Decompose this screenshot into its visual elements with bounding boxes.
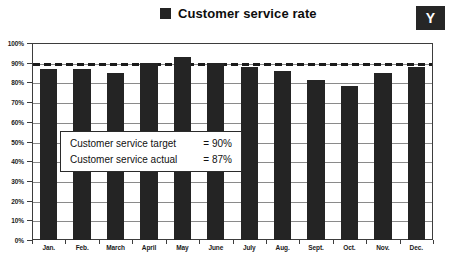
x-tick-mark [266, 240, 267, 244]
bar [408, 67, 425, 240]
customer-service-rate-chart: Customer service rate Y 100%90%80%70%60%… [0, 0, 459, 276]
x-tick-label: Dec. [410, 244, 423, 251]
bar [274, 71, 291, 240]
x-tick-label: Sept. [308, 244, 323, 251]
legend-color-swatch-icon [160, 8, 171, 19]
bar [374, 73, 391, 240]
x-tick-mark [132, 240, 133, 244]
x-tick-mark [299, 240, 300, 244]
bar [40, 69, 57, 240]
y-tick-label: 10% [11, 217, 24, 224]
x-tick-label: March [106, 244, 125, 251]
legend-label: Customer service rate [178, 7, 317, 20]
x-tick-mark [166, 240, 167, 244]
y-tick-label: 80% [11, 79, 24, 86]
y-tick-label: 70% [11, 99, 24, 106]
annotation-row-actual: Customer service actual = 87% [70, 152, 232, 168]
annotation-actual-value: = 87% [199, 152, 232, 168]
x-tick-mark [233, 240, 234, 244]
bar [307, 80, 324, 240]
bar [241, 67, 258, 240]
bar [341, 86, 358, 240]
x-tick-label: June [208, 244, 223, 251]
y-tick-label: 0% [15, 237, 24, 244]
x-tick-mark [400, 240, 401, 244]
x-axis: Jan.Feb.MarchAprilMayJuneJulyAug.Sept.Oc… [32, 244, 433, 262]
x-tick-label: Nov. [376, 244, 389, 251]
x-tick-mark [199, 240, 200, 244]
corner-badge: Y [416, 6, 445, 30]
annotation-target-label: Customer service target [70, 136, 176, 152]
x-tick-label: July [243, 244, 256, 251]
x-tick-mark [366, 240, 367, 244]
x-tick-label: Feb. [76, 244, 89, 251]
y-tick-label: 90% [11, 59, 24, 66]
x-tick-label: May [176, 244, 188, 251]
x-tick-label: Aug. [276, 244, 290, 251]
annotation-actual-label: Customer service actual [70, 152, 177, 168]
annotation-target-value: = 90% [199, 136, 232, 152]
y-tick-label: 40% [11, 158, 24, 165]
chart-legend: Customer service rate [160, 7, 317, 20]
x-tick-mark [433, 240, 434, 244]
x-tick-mark [32, 240, 33, 244]
x-tick-mark [333, 240, 334, 244]
annotation-row-target: Customer service target = 90% [70, 136, 232, 152]
x-tick-mark [65, 240, 66, 244]
y-tick-label: 60% [11, 118, 24, 125]
corner-badge-label: Y [426, 11, 435, 25]
annotation-box: Customer service target = 90% Customer s… [60, 131, 242, 172]
y-tick-label: 20% [11, 197, 24, 204]
y-axis: 100%90%80%70%60%50%40%30%20%10%0% [0, 43, 28, 240]
y-tick-label: 30% [11, 177, 24, 184]
x-tick-mark [99, 240, 100, 244]
x-tick-label: April [142, 244, 156, 251]
x-tick-label: Jan. [42, 244, 55, 251]
x-tick-label: Oct. [343, 244, 355, 251]
y-tick-label: 50% [11, 138, 24, 145]
y-tick-label: 100% [8, 40, 24, 47]
